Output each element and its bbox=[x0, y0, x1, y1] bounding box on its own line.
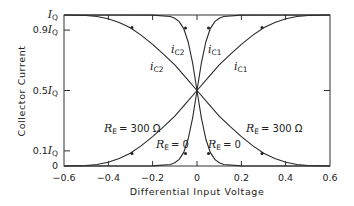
curves bbox=[64, 15, 330, 166]
y-ticks-left bbox=[64, 30, 70, 151]
svg-text:−0.2: −0.2 bbox=[141, 172, 164, 183]
x-axis-title: Differential Input Voltage bbox=[130, 186, 265, 197]
label-ic1-inner: iC1 bbox=[208, 43, 222, 57]
label-re0-left: RE= 0 bbox=[155, 138, 189, 152]
label-ic2-inner: iC2 bbox=[171, 43, 185, 57]
transfer-characteristic-chart: −0.6 −0.4 −0.2 0 0.2 0.4 0.6 IQ 0.9IQ 0.… bbox=[0, 0, 354, 206]
svg-text:0.2: 0.2 bbox=[234, 172, 249, 183]
x-ticks-bottom bbox=[108, 161, 285, 166]
svg-text:−0.4: −0.4 bbox=[97, 172, 120, 183]
svg-text:0.9IQ: 0.9IQ bbox=[33, 23, 58, 37]
y-axis-title: Collector Current bbox=[16, 45, 27, 136]
svg-text:0.5IQ: 0.5IQ bbox=[33, 84, 58, 98]
y-tick-labels: IQ 0.9IQ 0.5IQ 0.1IQ 0 bbox=[33, 8, 58, 171]
label-re300-left: RE= 300 Ω bbox=[103, 122, 161, 136]
label-ic2-outer: iC2 bbox=[150, 60, 164, 74]
svg-text:0.1IQ: 0.1IQ bbox=[33, 144, 58, 158]
curve-ic2-re300 bbox=[64, 15, 330, 166]
svg-text:−0.6: −0.6 bbox=[52, 172, 75, 183]
svg-text:IQ: IQ bbox=[47, 8, 58, 22]
svg-text:0: 0 bbox=[52, 160, 58, 171]
x-tick-labels: −0.6 −0.4 −0.2 0 0.2 0.4 0.6 bbox=[52, 172, 337, 183]
label-re300-right: RE= 300 Ω bbox=[245, 122, 303, 136]
label-re0-right: RE= 0 bbox=[207, 138, 241, 152]
x-ticks-top bbox=[108, 15, 285, 20]
svg-text:0.4: 0.4 bbox=[278, 172, 293, 183]
svg-text:0: 0 bbox=[194, 172, 200, 183]
svg-text:0.6: 0.6 bbox=[322, 172, 337, 183]
label-ic1-outer: iC1 bbox=[234, 60, 248, 74]
